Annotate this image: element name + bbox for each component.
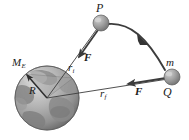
mass-at-p <box>93 15 109 31</box>
label-point-p: P <box>96 2 103 14</box>
physics-diagram: P ME R F ri rf F m Q <box>0 0 189 140</box>
label-r-initial-subscript: i <box>73 67 75 74</box>
diagram-canvas <box>0 0 189 140</box>
label-r-final-base: r <box>100 87 104 99</box>
label-r-final-subscript: f <box>105 93 107 100</box>
label-force-upper: F <box>84 52 91 63</box>
trajectory-path <box>108 24 165 70</box>
label-r-initial: ri <box>68 62 74 73</box>
label-force-lower: F <box>135 86 142 97</box>
force-vector-lower <box>128 78 166 84</box>
label-earth-mass-subscript: E <box>21 62 25 69</box>
label-r-final: rf <box>100 88 106 99</box>
label-r-initial-base: r <box>68 61 72 73</box>
label-small-mass: m <box>166 57 174 68</box>
label-earth-mass: ME <box>12 57 25 68</box>
label-point-q: Q <box>163 86 172 98</box>
label-earth-radius: R <box>29 85 36 96</box>
mass-at-q <box>164 69 180 85</box>
label-earth-mass-base: M <box>12 56 21 68</box>
